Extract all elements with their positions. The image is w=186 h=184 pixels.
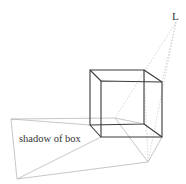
shadow-edge-bottom <box>17 162 148 179</box>
cube-front-face <box>101 81 162 137</box>
cube-edge-top-right <box>144 70 162 82</box>
cube-edge-bottom-left <box>90 125 101 137</box>
light-rays <box>115 22 176 162</box>
shadow-edge-inner-top <box>115 118 144 124</box>
light-source-label: L <box>172 10 179 22</box>
ray-back-top-right-down <box>144 70 148 162</box>
shadow-edge-upper <box>11 119 90 125</box>
shadow-label: shadow of box <box>19 133 82 144</box>
cube-edge-top-left <box>90 70 101 81</box>
shadow-edge-left <box>11 119 17 179</box>
shadow-edge-top <box>11 118 115 119</box>
cube-wireframe <box>90 70 162 137</box>
shadow-outline <box>11 118 162 179</box>
shadow-diagram: L shadow of box <box>0 0 186 184</box>
shadow-edge-right <box>148 137 162 162</box>
